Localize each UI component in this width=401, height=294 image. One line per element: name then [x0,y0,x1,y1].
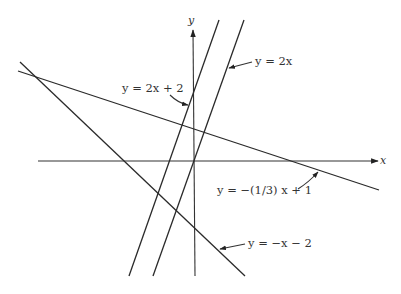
label-2x-plus-2: y = 2x + 2 [121,81,184,95]
y-axis-label: y [187,14,195,27]
line-2x [153,20,244,276]
leader-arrow-2x-plus-2 [170,95,188,105]
label-neg-x-minus-2: y = −x − 2 [247,236,312,250]
line-neg-third-x-plus-1 [18,71,379,190]
diagram-canvas: x y y = 2x + 2 y = 2x y = −(1/3) x + 1 y… [0,0,401,294]
x-axis-label: x [380,154,387,167]
label-neg-third-x-plus-1: y = −(1/3) x + 1 [216,183,312,197]
coordinate-plane: x y y = 2x + 2 y = 2x y = −(1/3) x + 1 y… [0,0,401,294]
leader-arrow-2x [229,62,252,68]
label-2x: y = 2x [254,54,293,68]
y-axis [193,30,195,276]
leader-arrow-neg-x-minus-2 [220,244,245,249]
